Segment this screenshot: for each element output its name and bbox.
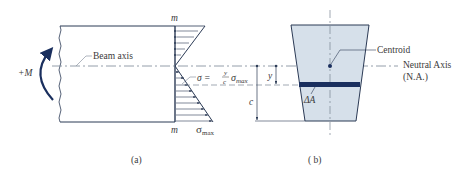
- sigma-max-label: σmax: [196, 123, 214, 137]
- panel-b: Centroid Neutral Axis (N.A.) ΔA c y ( b): [249, 10, 452, 166]
- panel-a: Beam axis +M m m: [18, 13, 250, 166]
- beam-axis-label: Beam axis: [93, 51, 133, 61]
- area-element-label: ΔA: [303, 95, 316, 105]
- moment-label: +M: [18, 68, 33, 78]
- dim-c-label: c: [249, 97, 254, 107]
- caption-b: ( b): [308, 155, 321, 166]
- stress-formula: σ = y c σmax: [197, 69, 248, 86]
- svg-text:σ =: σ =: [197, 73, 210, 83]
- break-line: [59, 26, 61, 122]
- dim-y-label: y: [267, 71, 273, 81]
- caption-a: (a): [131, 155, 142, 166]
- beam-body: [59, 26, 175, 122]
- beam-bending-figure: Beam axis +M m m: [0, 0, 472, 176]
- section-top-label: m: [171, 13, 178, 23]
- section-bottom-label: m: [171, 125, 178, 135]
- formula-leader: [182, 77, 196, 84]
- centroid-label: Centroid: [377, 45, 410, 55]
- svg-text:σmax: σmax: [231, 72, 248, 85]
- svg-text:y: y: [223, 69, 228, 77]
- beam-axis-leader: [76, 56, 92, 66]
- moment-arrow-icon: [40, 52, 53, 100]
- area-element-strip: [299, 82, 360, 87]
- centroid-dot: [328, 64, 332, 68]
- neutral-axis-label: Neutral Axis: [403, 60, 452, 70]
- neutral-axis-abbrev: (N.A.): [403, 72, 428, 83]
